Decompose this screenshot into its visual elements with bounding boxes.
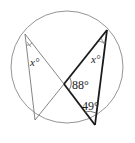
angle-label-88: 88° — [72, 78, 89, 92]
angle-label-left: x° — [29, 56, 40, 68]
circle — [11, 11, 123, 123]
geometry-diagram: x° x° 88° 49° — [0, 0, 135, 143]
chord-a-b — [25, 34, 35, 120]
segment-b-e — [35, 84, 64, 120]
angle-tick-right — [101, 38, 104, 44]
angle-label-right: x° — [90, 53, 101, 65]
angle-label-49: 49° — [82, 99, 99, 113]
angle-arc-88 — [69, 78, 71, 90]
